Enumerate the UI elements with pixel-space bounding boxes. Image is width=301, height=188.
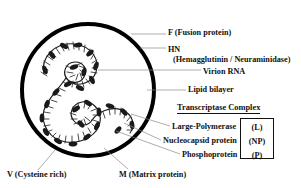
label-transcriptase-complex: Transcriptase Complex <box>177 104 260 114</box>
abbrev-large-polymerase: (L) <box>241 123 273 132</box>
label-virion-rna: Virion RNA <box>203 68 245 76</box>
label-lipid-bilayer: Lipid bilayer <box>188 86 234 94</box>
virion-diagram-figure: F (Fusion protein) HN (Hemagglutinin / N… <box>0 0 301 188</box>
label-f-protein: F (Fusion protein) <box>168 29 231 37</box>
label-m-protein: M (Matrix protein) <box>119 171 186 179</box>
abbrev-phosphoprotein: (P) <box>241 151 273 160</box>
label-large-polymerase: Large-Polymerase <box>172 123 236 131</box>
leader-v-protein <box>38 150 55 170</box>
abbrev-nucleocapsid-protein: (NP) <box>241 137 273 146</box>
label-v-protein: V (Cysteine rich) <box>7 171 66 179</box>
label-nucleocapsid-protein: Nucleocapsid protein <box>163 137 237 145</box>
label-phosphoprotein: Phosphoprotein <box>182 151 237 159</box>
label-hn-protein-subtitle: (Hemagglutinin / Neuraminidase) <box>173 56 290 64</box>
label-hn-protein: HN <box>168 46 180 54</box>
abbreviation-box: (L) (NP) (P) <box>240 118 274 159</box>
